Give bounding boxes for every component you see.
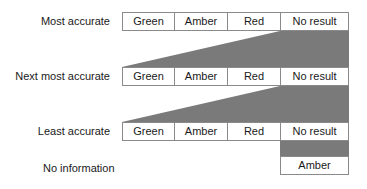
row-label-most-accurate: Most accurate [41,12,110,31]
cell-red: Red [228,13,281,30]
connector-row1-to-row2 [122,31,349,67]
result-bar-most-accurate: Green Amber Red No result [122,12,349,31]
row-label-next-most-accurate: Next most accurate [15,67,110,86]
cell-green: Green [123,123,175,140]
row-label-least-accurate: Least accurate [38,122,110,141]
cell-amber: Amber [175,13,228,30]
accuracy-cascade-diagram: Most accurate Green Amber Red No result … [0,0,367,189]
cell-amber: Amber [175,123,228,140]
cell-amber-default: Amber [280,156,349,175]
cell-green: Green [123,68,175,85]
cell-green: Green [123,13,175,30]
connector-row3-to-row4 [280,141,349,156]
cell-no-result: No result [281,13,348,30]
row-label-no-information: No information [43,159,115,178]
result-bar-next-most-accurate: Green Amber Red No result [122,67,349,86]
cell-red: Red [228,68,281,85]
connector-row2-to-row3 [122,86,349,122]
result-bar-least-accurate: Green Amber Red No result [122,122,349,141]
cell-no-result: No result [281,123,348,140]
cell-no-result: No result [281,68,348,85]
cell-red: Red [228,123,281,140]
cell-amber: Amber [175,68,228,85]
